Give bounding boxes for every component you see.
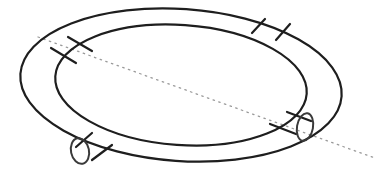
ring-rail-drawing xyxy=(0,0,375,177)
inner-ring-ellipse xyxy=(51,16,311,153)
axis-line xyxy=(38,37,375,158)
crossbar-group xyxy=(51,19,311,160)
crossbar-lower-left xyxy=(76,133,112,160)
diagram-canvas xyxy=(0,0,375,177)
crossbar-line xyxy=(276,24,290,40)
small-ring-group xyxy=(68,112,315,166)
lower-left-ring xyxy=(68,136,91,165)
